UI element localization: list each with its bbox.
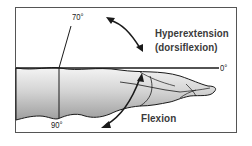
- angle-label-70: 70°: [72, 12, 84, 22]
- hyperextension-label-line2: (dorsiflexion): [155, 40, 229, 54]
- flexion-label: Flexion: [141, 112, 176, 124]
- angle-label-0: 0°: [220, 63, 227, 73]
- hyperextension-label-line1: Hyperextension: [155, 26, 229, 40]
- hyperextension-arrow: [110, 20, 140, 48]
- wrist-motion-diagram: [0, 0, 252, 146]
- hyperextension-label: Hyperextension (dorsiflexion): [155, 26, 229, 54]
- angle-label-90: 90°: [51, 120, 63, 130]
- hand-silhouette: [16, 68, 216, 120]
- seventy-degree-line: [59, 26, 71, 68]
